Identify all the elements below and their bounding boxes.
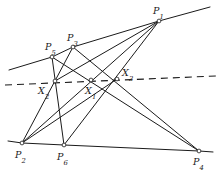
vertex-marker-x2 [53,79,57,83]
label-subscript: 3 [129,75,133,83]
vertex-marker-x3 [115,77,119,81]
vertex-marker-x1 [89,78,93,82]
label-base: P [67,32,73,43]
solid-line-group [8,7,213,152]
label-base: X [38,85,45,96]
line-P2-X3-up [22,79,117,143]
point-label-p4: P4 [193,157,204,167]
line-lower-line-P6-P4 [64,145,199,151]
point-label-p1: P1 [153,6,164,16]
label-subscript: 1 [160,13,164,21]
point-label-p3: P3 [67,33,78,43]
point-label-p6: P6 [57,152,68,162]
line-P5-P6 [52,57,64,145]
line-lower-line-P2-P6 [22,143,64,145]
label-subscript: 5 [52,49,56,57]
point-label-x2: X2 [38,86,49,96]
label-base: X [85,85,92,96]
point-label-x3: X3 [122,68,133,78]
label-base: P [15,149,21,160]
label-subscript: 3 [74,40,78,48]
label-base: P [45,41,51,52]
label-subscript: 1 [92,93,96,101]
label-subscript: 2 [45,93,49,101]
point-label-p5: P5 [45,42,56,52]
label-base: P [153,5,159,16]
vertex-marker-p6 [62,143,66,147]
point-label-x1: X1 [85,86,96,96]
label-base: P [193,156,199,167]
geometry-figure: P1P5P3X2X1X3P2P6P4 [0,0,219,174]
label-subscript: 4 [200,164,204,172]
point-label-p2: P2 [15,150,26,160]
label-base: X [122,67,129,78]
line-upper-line-P3-P1 [73,21,159,47]
label-subscript: 6 [64,159,68,167]
line-upper-line-left [9,57,52,70]
vertex-marker-p4 [197,149,201,153]
label-subscript: 2 [22,157,26,165]
figure-canvas [0,0,219,174]
line-upper-line-right [159,7,210,21]
vertex-marker-p2 [20,141,24,145]
label-base: P [57,151,63,162]
